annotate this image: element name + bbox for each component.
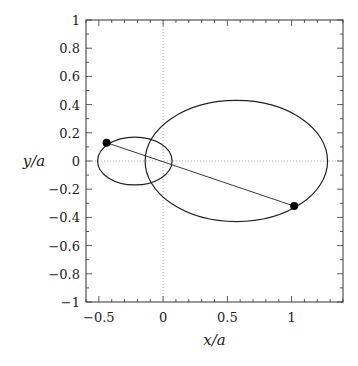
- y-tick-label: −0.2: [48, 182, 80, 197]
- y-tick-label: −1: [61, 295, 80, 310]
- x-tick-label: −0.5: [83, 310, 115, 325]
- x-tick-label: 0.5: [217, 310, 238, 325]
- plot-frame: [86, 20, 343, 302]
- x-axis-label: x/a: [203, 331, 225, 349]
- y-axis-label: y/a: [22, 152, 45, 170]
- y-tick-label: 0.4: [59, 98, 80, 113]
- y-tick-label: −0.4: [48, 210, 80, 225]
- y-tick-label: −0.6: [48, 239, 80, 254]
- body-marker: [103, 139, 111, 147]
- y-tick-label: 1: [72, 13, 80, 28]
- x-tick-label: 1: [287, 310, 295, 325]
- y-tick-label: 0.8: [59, 41, 80, 56]
- orbit-chart: −0.500.5110.80.60.40.20−0.2−0.4−0.6−0.8−…: [0, 0, 358, 366]
- body-marker: [290, 202, 298, 210]
- connecting-line: [107, 143, 295, 206]
- y-tick-label: 0.2: [59, 126, 80, 141]
- x-tick-label: 0: [159, 310, 167, 325]
- y-tick-label: 0: [72, 154, 80, 169]
- y-tick-label: 0.6: [59, 69, 80, 84]
- y-tick-label: −0.8: [48, 267, 80, 282]
